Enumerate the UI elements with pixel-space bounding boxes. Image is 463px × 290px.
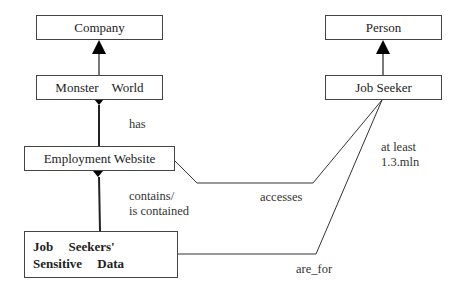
multiplicity-annotation: at least 1.3.mln bbox=[381, 140, 419, 170]
class-label: Monster World bbox=[55, 80, 143, 96]
association-line-accesses bbox=[174, 100, 382, 183]
class-employment-website: Employment Website bbox=[24, 146, 175, 171]
generalization-arrow-icon bbox=[92, 40, 106, 54]
class-monster-world: Monster World bbox=[36, 75, 163, 100]
class-label: Job Seekers' Sensitive Data bbox=[33, 238, 177, 272]
class-person: Person bbox=[325, 15, 442, 40]
class-sensitive-data: Job Seekers' Sensitive Data bbox=[24, 231, 178, 278]
generalization-arrow-icon bbox=[376, 40, 390, 54]
class-job-seeker: Job Seeker bbox=[325, 75, 442, 100]
association-line-are-for bbox=[178, 100, 382, 254]
class-label: Employment Website bbox=[44, 151, 156, 167]
relation-label-accesses: accesses bbox=[260, 190, 302, 205]
composition-line-contains bbox=[99, 177, 100, 231]
class-label: Company bbox=[74, 20, 125, 36]
relation-label-contains: contains/ is contained bbox=[129, 189, 189, 219]
class-label: Person bbox=[366, 20, 401, 36]
class-diagram: Company Monster World Employment Website… bbox=[0, 0, 463, 290]
relation-label-has: has bbox=[129, 117, 146, 132]
relation-label-are-for: are_for bbox=[296, 262, 332, 277]
class-company: Company bbox=[36, 15, 163, 40]
class-label: Job Seeker bbox=[355, 80, 412, 96]
